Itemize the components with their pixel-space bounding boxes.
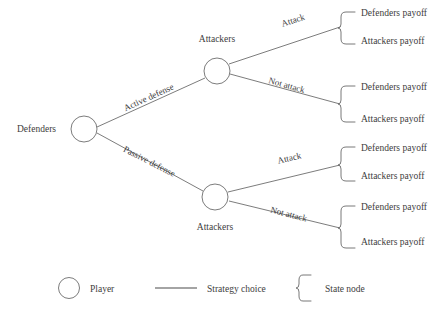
legend-label-strategy: Strategy choice (207, 284, 266, 294)
node-root-defenders[interactable] (71, 116, 97, 142)
payoff-3-defender: Defenders payoff (361, 143, 428, 153)
payoff-2-defender: Defenders payoff (361, 82, 428, 92)
edge-upper-attack (229, 27, 340, 64)
edge-label-lower-not-attack: Not attack (269, 205, 308, 224)
state-bracket-3 (338, 147, 355, 181)
node-attackers-upper[interactable] (204, 58, 230, 84)
state-bracket-1 (338, 12, 355, 44)
state-bracket-2 (338, 86, 355, 122)
payoff-1-defender: Defenders payoff (361, 8, 428, 18)
legend: Player Strategy choice State node (59, 275, 365, 301)
payoff-1-attacker: Attackers payoff (361, 36, 425, 46)
payoff-4-defender: Defenders payoff (361, 202, 428, 212)
edge-label-lower-attack: Attack (276, 150, 302, 165)
edge-label-upper-attack: Attack (280, 12, 306, 29)
legend-label-state-node: State node (325, 284, 365, 294)
upper-attackers-label: Attackers (199, 34, 236, 44)
edge-label-passive-defense: Passive defense (122, 144, 177, 179)
edge-label-active-defense: Active defense (122, 82, 175, 113)
edge-active-defense (97, 78, 205, 127)
edge-label-upper-not-attack: Not attack (268, 75, 307, 95)
legend-player-icon (59, 278, 80, 299)
root-player-label: Defenders (17, 124, 56, 134)
legend-label-player: Player (90, 284, 115, 294)
node-attackers-lower[interactable] (202, 184, 228, 210)
lower-attackers-label: Attackers (197, 222, 234, 232)
game-tree-diagram: Defenders Attackers Attackers Active def… (0, 0, 448, 315)
state-bracket-4 (338, 206, 355, 248)
edge-lower-attack (228, 165, 340, 192)
payoff-4-attacker: Attackers payoff (361, 237, 425, 247)
legend-state-node-icon (296, 275, 311, 301)
payoff-2-attacker: Attackers payoff (361, 114, 425, 124)
payoff-3-attacker: Attackers payoff (361, 171, 425, 181)
